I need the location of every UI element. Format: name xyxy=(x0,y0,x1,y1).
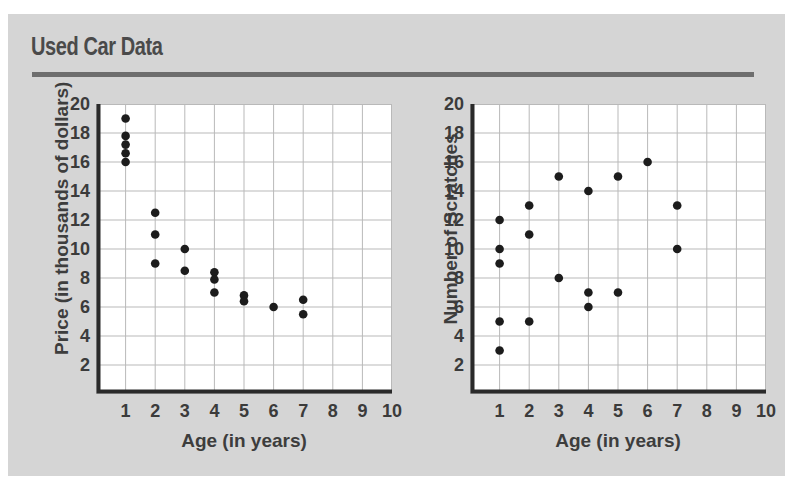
y-tick-label: 12 xyxy=(60,211,90,229)
data-point xyxy=(614,172,623,181)
x-tick-label: 2 xyxy=(516,402,542,420)
y-tick-label: 20 xyxy=(434,95,464,113)
y-tick-label: 10 xyxy=(60,240,90,258)
x-tick-label: 3 xyxy=(546,402,572,420)
data-point xyxy=(121,158,130,167)
plot-area-scratches xyxy=(470,104,766,394)
y-tick-label: 16 xyxy=(60,153,90,171)
x-tick-label: 3 xyxy=(172,402,198,420)
x-tick-label: 10 xyxy=(753,402,779,420)
page-root: Used Car Data Price (in thousands of dol… xyxy=(0,0,793,487)
x-axis-label-price: Age (in years) xyxy=(96,430,392,452)
data-point xyxy=(121,132,130,141)
data-point xyxy=(151,208,160,217)
data-point xyxy=(181,245,190,254)
y-tick-label: 14 xyxy=(434,182,464,200)
data-point xyxy=(269,303,278,312)
data-point xyxy=(525,317,534,326)
chart-panel-price: Price (in thousands of dollars) 24681012… xyxy=(28,94,408,454)
data-point xyxy=(555,274,564,283)
data-point xyxy=(555,172,564,181)
y-tick-label: 2 xyxy=(60,356,90,374)
y-tick-label: 14 xyxy=(60,182,90,200)
data-point xyxy=(584,187,593,196)
data-point xyxy=(614,288,623,297)
x-tick-label: 6 xyxy=(261,402,287,420)
y-tick-label: 6 xyxy=(434,298,464,316)
x-axis-label-scratches: Age (in years) xyxy=(470,430,766,452)
data-point xyxy=(584,303,593,312)
scatter-canvas xyxy=(96,104,392,394)
axis-lines xyxy=(473,104,767,392)
figure-card: Used Car Data Price (in thousands of dol… xyxy=(8,14,785,476)
x-tick-label: 9 xyxy=(723,402,749,420)
data-point xyxy=(121,140,130,149)
x-tick-label: 2 xyxy=(142,402,168,420)
y-tick-label: 18 xyxy=(434,124,464,142)
data-point xyxy=(151,230,160,239)
data-point xyxy=(495,259,504,268)
data-point xyxy=(673,201,682,210)
data-point xyxy=(210,275,219,284)
y-tick-label: 8 xyxy=(60,269,90,287)
y-tick-label: 18 xyxy=(60,124,90,142)
chart-panel-scratches: Number of Scratches 2468101214161820 123… xyxy=(408,94,778,454)
y-tick-label: 10 xyxy=(434,240,464,258)
data-point xyxy=(210,288,219,297)
data-point xyxy=(151,259,160,268)
x-tick-label: 7 xyxy=(664,402,690,420)
x-tick-label: 5 xyxy=(605,402,631,420)
x-tick-label: 6 xyxy=(635,402,661,420)
x-tick-label: 8 xyxy=(694,402,720,420)
x-tick-label: 1 xyxy=(113,402,139,420)
x-tick-label: 4 xyxy=(201,402,227,420)
y-tick-label: 16 xyxy=(434,153,464,171)
data-point xyxy=(525,230,534,239)
data-point xyxy=(181,266,190,275)
y-axis-label-price: Price (in thousands of dollars) xyxy=(51,115,73,355)
x-tick-label: 10 xyxy=(379,402,405,420)
page-title: Used Car Data xyxy=(31,32,163,61)
y-tick-label: 2 xyxy=(434,356,464,374)
x-tick-label: 1 xyxy=(487,402,513,420)
data-point xyxy=(495,216,504,225)
data-point xyxy=(240,297,249,306)
x-tick-label: 8 xyxy=(320,402,346,420)
y-tick-label: 8 xyxy=(434,269,464,287)
data-point xyxy=(643,158,652,167)
data-point xyxy=(121,149,130,158)
plot-area-price xyxy=(96,104,392,394)
x-tick-label: 5 xyxy=(231,402,257,420)
data-point xyxy=(495,245,504,254)
title-divider xyxy=(32,72,754,77)
x-tick-label: 9 xyxy=(349,402,375,420)
y-tick-label: 4 xyxy=(60,327,90,345)
data-point xyxy=(673,245,682,254)
y-tick-label: 12 xyxy=(434,211,464,229)
data-point xyxy=(584,288,593,297)
data-point xyxy=(299,295,308,304)
data-point xyxy=(495,317,504,326)
y-tick-label: 4 xyxy=(434,327,464,345)
x-tick-label: 7 xyxy=(290,402,316,420)
data-point xyxy=(495,346,504,355)
data-point xyxy=(299,310,308,319)
scatter-canvas xyxy=(470,104,766,394)
axis-lines xyxy=(99,104,393,392)
y-tick-label: 20 xyxy=(60,95,90,113)
data-point xyxy=(121,114,130,123)
y-tick-label: 6 xyxy=(60,298,90,316)
x-tick-label: 4 xyxy=(575,402,601,420)
data-point xyxy=(525,201,534,210)
